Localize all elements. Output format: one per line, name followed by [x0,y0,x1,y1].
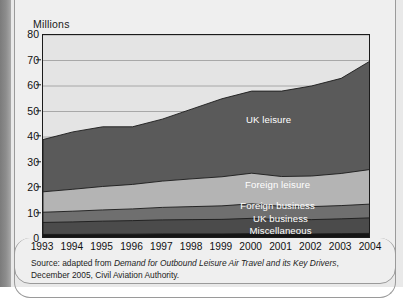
x-tick-label-1995: 1995 [90,241,113,252]
area-miscellaneous [43,233,370,238]
x-tick-label-2002: 2002 [299,241,322,252]
series-label-foreign-leisure: Foreign leisure [245,178,310,189]
y-axis-labels: 01020304050607080 [13,34,39,238]
y-tick-label-50: 50 [17,105,39,117]
series-label-miscellaneous: Miscellaneous [249,225,311,236]
x-tick-label-2003: 2003 [329,241,352,252]
source-title: Demand for Outbound Leisure Air Travel a… [114,258,337,268]
y-tick-label-70: 70 [17,54,39,66]
x-tick-label-2004: 2004 [359,241,382,252]
source-prefix: Source: adapted from [31,258,114,268]
x-tick-label-1994: 1994 [60,241,83,252]
series-label-uk-business: UK business [253,212,308,223]
x-tick-label-1996: 1996 [120,241,143,252]
y-tick-label-30: 30 [17,156,39,168]
x-tick-label-1999: 1999 [210,241,233,252]
stacked-area-chart [43,35,370,238]
x-tick-label-2000: 2000 [239,241,262,252]
x-axis-labels: 1993199419951996199719981999200020012002… [42,241,370,257]
y-tick-label-60: 60 [17,79,39,91]
series-label-foreign-business: Foreign business [240,199,315,210]
y-tick-label-40: 40 [17,130,39,142]
x-tick-label-1993: 1993 [31,241,54,252]
y-tick-label-10: 10 [17,207,39,219]
y-tick-label-80: 80 [17,28,39,40]
x-tick-label-1997: 1997 [150,241,173,252]
y-tick-label-20: 20 [17,181,39,193]
x-tick-label-2001: 2001 [269,241,292,252]
source-note: Source: adapted from Demand for Outbound… [31,258,376,281]
series-label-uk-leisure: UK leisure [246,114,291,125]
plot-area: UK leisureForeign leisureForeign busines… [42,34,370,238]
plot-frame [42,34,370,238]
x-tick-label-1998: 1998 [180,241,203,252]
